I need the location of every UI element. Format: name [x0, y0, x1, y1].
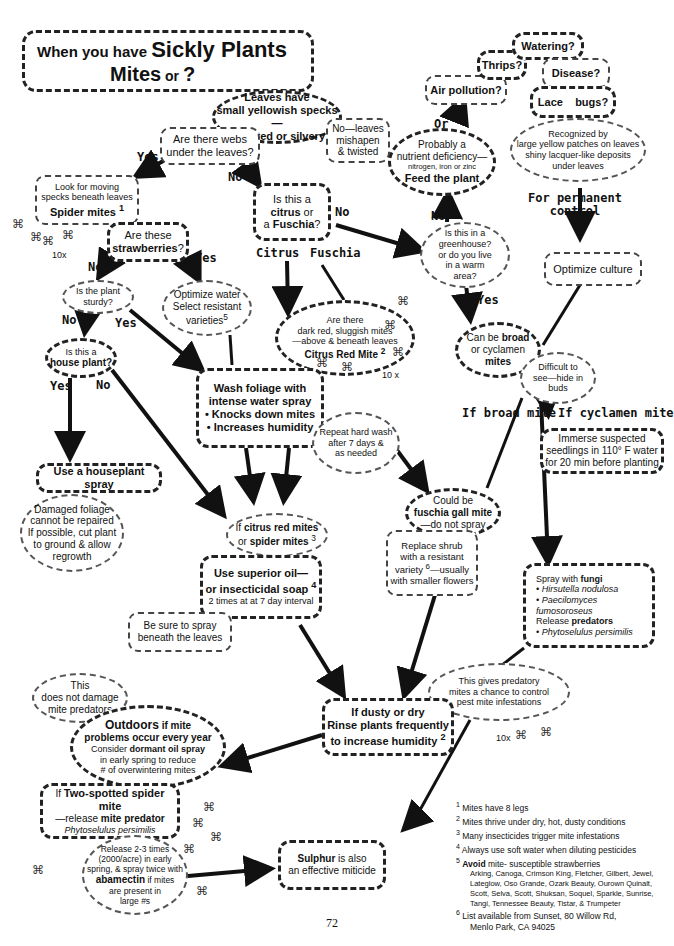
footnotes: 1 Mites have 8 legs 2 Mites thrive under…: [456, 800, 666, 933]
label-yes: Yes: [50, 379, 72, 393]
mite-icon: ⌘: [316, 356, 328, 370]
mite-icon: ⌘: [397, 294, 409, 308]
if-citrus-red-node: If citrus red mites or spider mites 3: [226, 513, 328, 557]
mite-icon: ⌘: [392, 345, 404, 359]
label-if-broad: If broad mite: [462, 406, 556, 420]
label-yes: Yes: [477, 293, 499, 307]
dusty-dry-node: If dusty or dryRinse plants frequently t…: [322, 698, 454, 756]
greenhouse-question-node: Is this in agreenhouse?or do you livein …: [420, 222, 510, 288]
mite-icon: ⌘: [384, 318, 396, 332]
mite-icon: ⌘: [183, 842, 195, 856]
optimize-culture-node: Optimize culture: [544, 252, 642, 286]
label-no: No: [431, 209, 445, 223]
page-number: 72: [326, 916, 338, 931]
label-10x: 10x: [496, 733, 511, 743]
nutrient-deficiency-node: Probably anutrient deficiency— nitrogen,…: [388, 128, 496, 196]
citrus-fuschia-question-node: Is this a citrus or a Fuschia?: [253, 183, 331, 241]
watering-node: Watering?: [512, 32, 584, 60]
label-no: No: [96, 378, 110, 392]
label-no: No: [228, 170, 242, 184]
page-title: When you have Sickly Plants Mites or ?: [22, 30, 314, 92]
wash-foliage-node: Wash foliage withintense water spray• Kn…: [196, 368, 324, 448]
label-no: No: [335, 205, 349, 219]
mite-icon: ⌘: [62, 228, 74, 242]
label-no: No: [88, 260, 102, 274]
footnote: 5 Avoid mite- susceptible strawberries A…: [456, 856, 666, 909]
mite-icon: ⌘: [196, 884, 208, 898]
spray-fungi-node: Spray with fungi • Hirsutella nodulosa •…: [523, 563, 655, 648]
webs-question-node: Are there websunder the leaves?: [160, 127, 260, 165]
label-yes: Yes: [137, 150, 159, 164]
immerse-seedlings-node: Immerse suspectedseedlings in 110° F wat…: [540, 428, 664, 474]
disease-node: Disease?: [542, 58, 610, 88]
strawberries-question-node: Are thesestrawberries?: [107, 222, 189, 262]
damaged-foliage-node: Damaged foliagecannot be repairedIf poss…: [20, 494, 124, 572]
mite-icon: ⌘: [210, 830, 222, 844]
label-yes: Yes: [195, 251, 217, 265]
label-10x: 10x: [52, 250, 67, 260]
label-citrus: Citrus: [256, 246, 299, 260]
mite-icon: ⌘: [192, 816, 204, 830]
mite-icon: ⌘: [515, 728, 527, 742]
mite-icon: ⌘: [12, 217, 24, 231]
outdoors-node: Outdoors if mite problems occur every ye…: [70, 705, 226, 789]
label-if-cyclamen: If cyclamen mite: [558, 406, 674, 420]
permanent-control-label: For permanentcontrol: [528, 192, 622, 218]
plant-sturdy-question-node: Is the plantsturdy?: [62, 280, 134, 314]
optimize-water-node: Optimize waterSelect resistant varieties…: [162, 280, 252, 336]
houseplant-spray-node: Use a houseplant spray: [36, 463, 162, 493]
sulphur-node: Sulphur is also an effective miticide: [278, 840, 386, 890]
footnote: 3 Many insecticides trigger mite infesta…: [456, 828, 666, 842]
label-fuschia: Fuschia: [310, 246, 361, 260]
label-10x: 10 x: [382, 370, 399, 380]
mite-icon: ⌘: [30, 230, 42, 244]
footnote: 6 List available from Sunset, 80 Willow …: [456, 908, 666, 933]
recognized-by-node: Recognized bylarge yellow patches on lea…: [510, 118, 646, 182]
difficult-see-node: Difficult tosee—hide inbuds: [520, 352, 596, 404]
label-no: No: [62, 313, 76, 327]
release-times-node: Release 2-3 times(2000/acre) in earlyspr…: [82, 835, 188, 915]
lace-bugs-node: Lace bugs?: [530, 86, 616, 118]
label-or: Or: [434, 117, 448, 131]
spider-mites-node: Look for movingspecks beneath leaves Spi…: [35, 175, 139, 225]
footnote: 1 Mites have 8 legs: [456, 800, 666, 814]
label-yes: Yes: [115, 316, 137, 330]
footnote: 2 Mites thrive under dry, hot, dusty con…: [456, 814, 666, 828]
mite-icon: ⌘: [32, 863, 44, 877]
two-spotted-node: If Two-spotted spider mite —release mite…: [40, 783, 180, 839]
house-plant-question-node: Is this ahouse plant?: [45, 338, 117, 378]
footnote: 4 Always use soft water when diluting pe…: [456, 842, 666, 856]
spray-beneath-node: Be sure to spraybeneath the leaves: [128, 612, 232, 652]
repeat-wash-node: Repeat hard washafter 7 days &as needed: [312, 412, 400, 474]
mite-icon: ⌘: [42, 234, 54, 248]
mishapen-node: No—leavesmishapen& twisted: [326, 118, 390, 163]
mite-icon: ⌘: [540, 725, 552, 739]
replace-shrub-node: Replace shrubwith a resistant variety 6—…: [386, 530, 478, 596]
mite-icon: ⌘: [203, 800, 215, 814]
mite-icon: ⌘: [341, 360, 353, 374]
superior-oil-node: Use superior oil— or insecticidal soap 4…: [200, 555, 322, 619]
